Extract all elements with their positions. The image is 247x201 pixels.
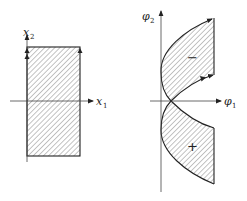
right-diagram: φ 2 φ 1 − + bbox=[142, 10, 236, 192]
phi2-axis-label: φ bbox=[142, 10, 150, 23]
plus-sign: + bbox=[187, 139, 198, 154]
x2-axis-subscript: 2 bbox=[30, 33, 34, 41]
left-diagram: x 2 x 1 bbox=[10, 26, 107, 162]
phi2-axis-subscript: 2 bbox=[150, 17, 154, 25]
diagram-canvas: x 2 x 1 φ 2 φ 1 − + bbox=[0, 0, 247, 201]
x1-axis-label: x bbox=[96, 95, 103, 108]
minus-sign: − bbox=[187, 50, 198, 65]
phi1-axis-subscript: 1 bbox=[232, 102, 236, 110]
hatched-rectangle-region bbox=[27, 47, 80, 156]
x1-axis-subscript: 1 bbox=[103, 102, 107, 110]
x2-axis-label: x bbox=[23, 26, 30, 39]
phi1-axis-label: φ bbox=[224, 95, 232, 108]
